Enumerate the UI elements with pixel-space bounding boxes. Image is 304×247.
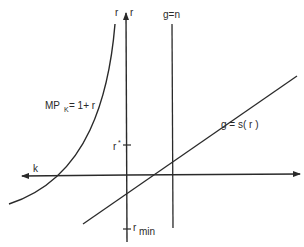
r-star-label: r *: [113, 139, 121, 152]
vertical-axis-label-left: r: [115, 7, 119, 18]
horizontal-axis-label: k: [33, 163, 39, 174]
r-min-label-main: r: [133, 222, 137, 233]
r-min-label: r min: [133, 222, 155, 237]
mpk-label-main: MP: [45, 100, 60, 111]
r-star-label-main: r: [113, 141, 117, 152]
vertical-axis: [126, 13, 127, 242]
growth-diagram: r r g=n g = s( r ) k MP K = 1+ r r * r m…: [0, 0, 304, 247]
mpk-curve: [9, 24, 115, 204]
saving-line-label: g = s( r ): [221, 119, 259, 130]
r-star-label-sup: *: [118, 139, 121, 146]
population-growth-line: [172, 24, 173, 228]
mpk-label-rest: = 1+ r: [69, 100, 96, 111]
horizontal-axis-left: [22, 175, 127, 176]
population-growth-label: g=n: [163, 9, 180, 20]
r-min-label-sub: min: [139, 226, 155, 237]
diagram-canvas: r r g=n g = s( r ) k MP K = 1+ r r * r m…: [0, 0, 304, 247]
mpk-label: MP K = 1+ r: [45, 100, 96, 113]
vertical-axis-label-right: r: [130, 7, 134, 18]
